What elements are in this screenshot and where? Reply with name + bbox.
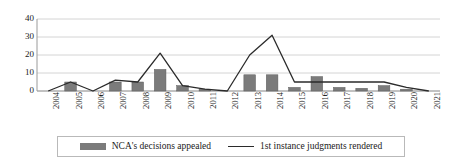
x-axis-tick-labels: 2004200520062007200820092010201120122013… xyxy=(0,92,462,132)
x-tick-label-2008: 2008 xyxy=(142,92,151,126)
x-tick-label-2004: 2004 xyxy=(52,92,61,126)
bar-2019 xyxy=(378,86,390,91)
legend-line-swatch-icon xyxy=(228,146,254,147)
y-tick-label-30: 30 xyxy=(8,32,34,41)
x-tick-label-2006: 2006 xyxy=(97,92,106,126)
x-tick-label-2011: 2011 xyxy=(209,92,218,126)
bar-2013 xyxy=(244,75,256,91)
x-tick-label-2018: 2018 xyxy=(366,92,375,126)
legend-label-nca-decisions-appealed: NCA's decisions appealed xyxy=(112,141,211,152)
line-series-1st-instance-judgments-rendered xyxy=(48,35,429,91)
legend-entry-bar: NCA's decisions appealed xyxy=(80,141,211,152)
legend-bar-swatch-icon xyxy=(80,143,106,150)
line-path xyxy=(48,35,429,91)
x-tick-label-2014: 2014 xyxy=(276,92,285,126)
bar-2015 xyxy=(289,87,301,91)
chart-legend: NCA's decisions appealed 1st instance ju… xyxy=(57,136,405,157)
bar-2014 xyxy=(266,75,278,91)
x-tick-label-2017: 2017 xyxy=(343,92,352,126)
x-tick-label-2021: 2021 xyxy=(433,92,442,126)
x-tick-label-2016: 2016 xyxy=(321,92,330,126)
plot-area: 010203040 xyxy=(0,0,462,100)
chart-figure: 010203040 200420052006200720082009201020… xyxy=(0,0,462,167)
y-axis-tick-labels: 010203040 xyxy=(4,0,34,100)
bar-2009 xyxy=(154,69,166,91)
legend-label-1st-instance-judgments-rendered: 1st instance judgments rendered xyxy=(260,141,382,152)
x-tick-label-2010: 2010 xyxy=(187,92,196,126)
y-tick-label-20: 20 xyxy=(8,50,34,59)
x-tick-label-2007: 2007 xyxy=(119,92,128,126)
x-tick-label-2019: 2019 xyxy=(388,92,397,126)
bar-2008 xyxy=(132,82,144,91)
y-tick-label-10: 10 xyxy=(8,68,34,77)
x-tick-label-2015: 2015 xyxy=(298,92,307,126)
bar-2018 xyxy=(356,88,368,91)
x-tick-label-2013: 2013 xyxy=(254,92,263,126)
bar-2016 xyxy=(311,77,323,91)
x-tick-label-2020: 2020 xyxy=(410,92,419,126)
bar-2017 xyxy=(333,87,345,91)
x-tick-label-2005: 2005 xyxy=(75,92,84,126)
x-tick-label-2009: 2009 xyxy=(164,92,173,126)
gridlines xyxy=(37,19,440,91)
bar-2020 xyxy=(401,89,413,91)
y-tick-label-40: 40 xyxy=(8,14,34,23)
legend-entry-line: 1st instance judgments rendered xyxy=(228,141,382,152)
x-tick-label-2012: 2012 xyxy=(231,92,240,126)
plot-svg xyxy=(0,0,462,100)
bar-2007 xyxy=(110,82,122,91)
